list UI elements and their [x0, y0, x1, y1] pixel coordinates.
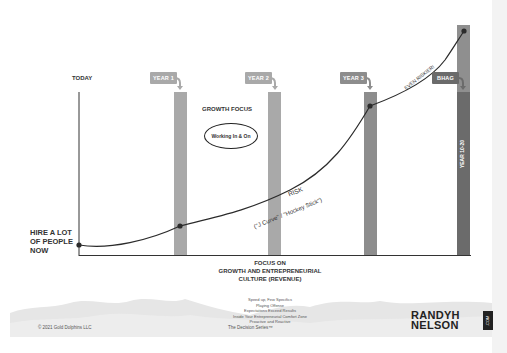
x-axis-title-line-3: CULTURE (REVENUE) [200, 275, 340, 283]
hire-line-1: HIRE A LOT [30, 228, 73, 237]
today-label: TODAY [72, 75, 92, 81]
year-3-tag: YEAR 3 [340, 72, 367, 84]
hire-line-3: NOW [30, 246, 73, 255]
year-2-tag: YEAR 2 [245, 72, 272, 84]
randy-nelson-logo: RANDYH NELSON [411, 311, 460, 330]
x-axis-title-line-1: FOCUS ON [200, 259, 340, 267]
copyright: © 2021 Gold Dolphins LLC [38, 325, 92, 330]
logo-dotcom: .COM [483, 311, 493, 330]
hire-people-label: HIRE A LOT OF PEOPLE NOW [30, 228, 73, 255]
year-10-20-label: YEAR 10-20 [459, 140, 465, 168]
year-1-tag: YEAR 1 [150, 72, 177, 84]
working-in-on-ellipse: Working In & On [204, 123, 258, 149]
growth-focus-title: GROWTH FOCUS [202, 106, 252, 112]
series-label: The Decision Series™ [228, 325, 273, 330]
x-axis-title: FOCUS ON GROWTH AND ENTREPRENEURIAL CULT… [200, 259, 340, 283]
bullet-item: Proactive and Reactive [205, 319, 335, 325]
logo-line-2: NELSON [411, 321, 460, 331]
hire-line-2: OF PEOPLE [30, 237, 73, 246]
bhag-tag: BHAG [432, 72, 459, 84]
focus-bullets: Speed up, Few Specifics Playing Offense … [205, 297, 335, 325]
x-axis-title-line-2: GROWTH AND ENTREPRENEURIAL [200, 267, 340, 275]
